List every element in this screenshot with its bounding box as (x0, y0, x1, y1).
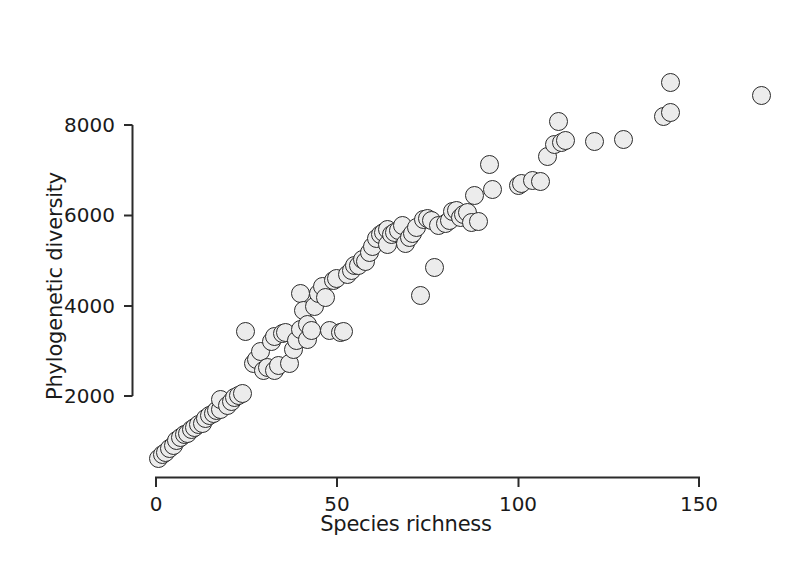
scatter-point (411, 286, 430, 305)
y-tick-label-6000: 6000 (20, 203, 115, 227)
x-axis-label: Species richness (0, 512, 812, 536)
y-tick-label-4000: 4000 (20, 294, 115, 318)
y-axis-label: Phylogenetic diversity (43, 172, 67, 400)
scatter-plot-figure: 8000 6000 4000 2000 0 50 100 150 Species… (0, 0, 812, 563)
scatter-point (233, 384, 252, 403)
plot-axes-svg (0, 0, 812, 563)
scatter-point (549, 112, 568, 131)
y-tick-label-2000: 2000 (20, 384, 115, 408)
scatter-point (661, 73, 680, 92)
scatter-point (483, 180, 502, 199)
y-tick-label-8000: 8000 (20, 113, 115, 137)
scatter-point (585, 132, 604, 151)
scatter-point (556, 131, 575, 150)
scatter-point (302, 321, 321, 340)
scatter-point (469, 212, 488, 231)
scatter-point (480, 155, 499, 174)
scatter-point (614, 130, 633, 149)
scatter-point (531, 172, 550, 191)
